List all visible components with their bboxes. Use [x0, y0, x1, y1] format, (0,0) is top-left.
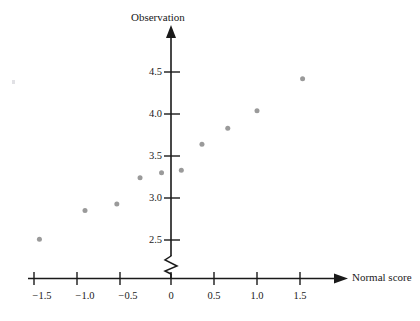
- x-tick-label: −1.5: [22, 291, 62, 302]
- data-point: [225, 126, 230, 131]
- data-point: [138, 175, 143, 180]
- y-tick-label: 4.5: [140, 67, 162, 78]
- data-point: [179, 168, 184, 173]
- x-tick-label: 1.5: [280, 291, 320, 302]
- y-axis-break-icon: [165, 256, 177, 274]
- x-axis-arrowhead: [334, 274, 348, 284]
- x-tick-label: 1.0: [237, 291, 277, 302]
- x-tick-label: 0: [151, 291, 191, 302]
- data-point: [199, 142, 204, 147]
- y-axis-arrowhead: [166, 25, 176, 38]
- y-tick-marks: [164, 72, 180, 240]
- x-tick-label: −1.0: [65, 291, 105, 302]
- y-tick-label: 2.5: [140, 235, 162, 246]
- data-point: [159, 170, 164, 175]
- x-axis-title: Normal score: [352, 272, 412, 283]
- x-tick-label: −0.5: [108, 291, 148, 302]
- y-tick-label: 4.0: [140, 109, 162, 120]
- y-tick-label: 3.0: [140, 193, 162, 204]
- x-tick-label: 0.5: [194, 291, 234, 302]
- data-point: [114, 201, 119, 206]
- scan-artifact-mark: [12, 80, 15, 84]
- y-tick-label: 3.5: [140, 151, 162, 162]
- data-point: [83, 208, 88, 213]
- data-point: [300, 76, 305, 81]
- data-point: [37, 237, 42, 242]
- data-point: [255, 108, 260, 113]
- y-axis-title: Observation: [131, 12, 185, 23]
